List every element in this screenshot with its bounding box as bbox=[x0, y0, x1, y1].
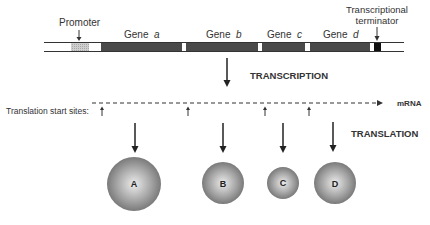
promoter-label: Promoter bbox=[59, 17, 100, 28]
terminator-region bbox=[374, 43, 381, 51]
gene-letter: b bbox=[236, 29, 242, 40]
gene-letter: c bbox=[297, 29, 302, 40]
gene-c-region bbox=[262, 43, 305, 51]
start-site-arrow-icon bbox=[263, 107, 267, 117]
gene-letter: d bbox=[353, 29, 359, 40]
translation-arrow-icon bbox=[132, 123, 139, 153]
gene-prefix: Gene bbox=[124, 29, 148, 40]
gene-a-label: Gene a bbox=[124, 29, 160, 40]
terminator-label-line2: terminator bbox=[346, 15, 408, 26]
gene-prefix: Gene bbox=[323, 29, 347, 40]
terminator-label-line1: Transcriptional bbox=[346, 4, 408, 15]
gene-letter: a bbox=[154, 29, 160, 40]
protein-b-label: B bbox=[220, 179, 227, 189]
translation-start-sites-label: Translation start sites: bbox=[6, 106, 89, 116]
protein-c-label: C bbox=[280, 178, 287, 188]
start-site-arrow-icon bbox=[307, 107, 311, 117]
protein-a-label: A bbox=[131, 179, 138, 189]
protein-d-label: D bbox=[332, 179, 339, 189]
mrna-strand bbox=[92, 100, 383, 106]
start-site-arrow-icon bbox=[100, 107, 104, 117]
transcription-arrow-icon bbox=[224, 58, 231, 87]
gene-d-region bbox=[310, 43, 370, 51]
translation-arrow-icon bbox=[220, 123, 227, 153]
translation-label: TRANSLATION bbox=[351, 128, 418, 139]
gene-b-region bbox=[186, 43, 258, 51]
gene-c-label: Gene c bbox=[267, 29, 302, 40]
gene-a-region bbox=[101, 43, 182, 51]
promoter-arrow-icon bbox=[77, 30, 82, 41]
gene-prefix: Gene bbox=[206, 29, 230, 40]
promoter-region bbox=[71, 43, 89, 51]
terminator-arrow-icon bbox=[375, 27, 380, 41]
mrna-label: mRNA bbox=[397, 99, 421, 108]
translation-arrow-icon bbox=[280, 123, 287, 153]
transcription-label: TRANSCRIPTION bbox=[250, 70, 328, 81]
start-site-arrows bbox=[100, 107, 311, 117]
gene-b-label: Gene b bbox=[206, 29, 242, 40]
gene-prefix: Gene bbox=[267, 29, 291, 40]
translation-arrows bbox=[132, 122, 337, 153]
translation-arrow-icon bbox=[330, 122, 337, 152]
terminator-label: Transcriptional terminator bbox=[346, 4, 408, 26]
gene-d-label: Gene d bbox=[323, 29, 359, 40]
start-site-arrow-icon bbox=[186, 107, 190, 117]
